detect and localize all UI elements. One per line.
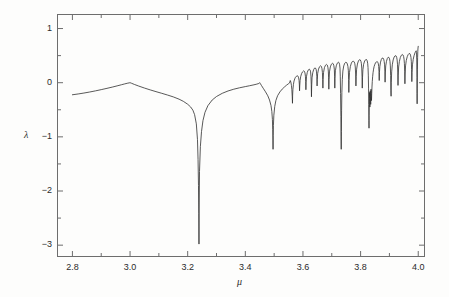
data-series-group	[72, 46, 418, 244]
x-tick-label: 3.4	[234, 262, 256, 272]
x-tick-label: 3.0	[119, 262, 141, 272]
y-tick-label: −2	[32, 185, 52, 195]
axes-frame	[58, 15, 425, 257]
lyapunov-exponent-figure: 2.83.03.23.43.63.84.0 10−1−2−3 μ λ	[0, 0, 449, 297]
y-tick-label: −1	[32, 131, 52, 141]
x-tick-label: 4.0	[407, 262, 429, 272]
plot-frame	[58, 15, 425, 257]
x-axis-title: μ	[237, 276, 242, 287]
x-tick-label: 3.8	[350, 262, 372, 272]
y-axis-title: λ	[24, 129, 28, 140]
axis-ticks	[58, 15, 424, 256]
y-tick-label: −3	[32, 239, 52, 249]
x-tick-label: 2.8	[61, 262, 83, 272]
y-tick-label: 1	[32, 23, 52, 33]
x-tick-label: 3.6	[292, 262, 314, 272]
lyapunov-curve	[72, 46, 418, 244]
y-tick-label: 0	[32, 77, 52, 87]
plot-canvas	[0, 0, 449, 297]
x-tick-label: 3.2	[177, 262, 199, 272]
